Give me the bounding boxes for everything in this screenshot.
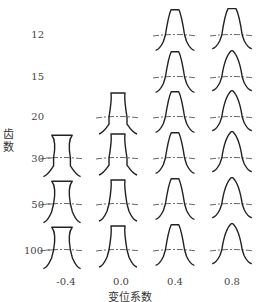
pitch-line <box>210 35 254 37</box>
col-label-0-0: 0.0 <box>101 276 141 287</box>
row-label-15: 15 <box>22 71 44 82</box>
pitch-line <box>153 158 197 160</box>
tooth-outline <box>156 52 195 93</box>
tooth-outline <box>156 133 195 174</box>
tooth-outline <box>156 179 195 220</box>
tooth-profile <box>40 135 84 176</box>
tooth-profile <box>153 133 197 174</box>
tooth-profile <box>40 227 84 268</box>
pitch-line <box>210 250 254 252</box>
pitch-line <box>210 77 254 79</box>
tooth-profile <box>210 132 254 172</box>
tooth-outline <box>212 224 252 264</box>
tooth-outline <box>156 10 195 51</box>
tooth-outline <box>212 9 252 49</box>
tooth-outline <box>212 178 252 218</box>
col-label-0-8: 0.8 <box>212 276 252 287</box>
tooth-outline <box>43 135 80 176</box>
row-label-50: 50 <box>22 199 44 210</box>
tooth-outline <box>99 180 137 221</box>
row-label-12: 12 <box>22 29 44 40</box>
tooth-profile <box>153 179 197 220</box>
tooth-outline <box>156 225 195 266</box>
row-label-30: 30 <box>22 153 44 164</box>
pitch-line <box>153 204 197 206</box>
tooth-profile <box>210 91 254 131</box>
tooth-outline <box>212 91 252 131</box>
tooth-profiles <box>40 9 254 269</box>
tooth-profile <box>210 224 254 264</box>
col-label-neg-0-4: -0.4 <box>46 276 86 287</box>
tooth-profile <box>96 226 140 267</box>
tooth-profile <box>210 9 254 49</box>
pitch-line <box>96 117 140 119</box>
tooth-outline <box>99 226 137 267</box>
row-label-100: 100 <box>21 245 43 256</box>
row-label-20: 20 <box>22 111 44 122</box>
tooth-outline <box>212 51 252 91</box>
tooth-profile <box>153 92 197 133</box>
gear-tooth-profile-diagram <box>0 0 259 302</box>
pitch-line <box>210 158 254 160</box>
pitch-line <box>96 204 140 206</box>
tooth-profile <box>96 180 140 221</box>
tooth-profile <box>96 93 140 134</box>
y-axis-title: 齿数 <box>3 128 15 154</box>
tooth-outline <box>99 93 137 134</box>
pitch-line <box>153 35 197 37</box>
tooth-profile <box>153 225 197 266</box>
col-label-0-4: 0.4 <box>155 276 195 287</box>
tooth-outline <box>156 92 195 133</box>
x-axis-title: 变位系数 <box>100 288 160 302</box>
pitch-line <box>96 250 140 252</box>
pitch-line <box>153 77 197 79</box>
tooth-profile <box>153 10 197 51</box>
pitch-line <box>96 158 140 160</box>
pitch-line <box>210 204 254 206</box>
tooth-outline <box>212 132 252 172</box>
tooth-profile <box>40 181 84 222</box>
tooth-profile <box>96 134 140 175</box>
tooth-profile <box>210 178 254 218</box>
tooth-profile <box>210 51 254 91</box>
pitch-line <box>210 117 254 119</box>
pitch-line <box>153 250 197 252</box>
tooth-outline <box>43 227 80 268</box>
tooth-profile <box>153 52 197 93</box>
tooth-outline <box>43 181 80 222</box>
tooth-outline <box>99 134 137 175</box>
pitch-line <box>153 117 197 119</box>
